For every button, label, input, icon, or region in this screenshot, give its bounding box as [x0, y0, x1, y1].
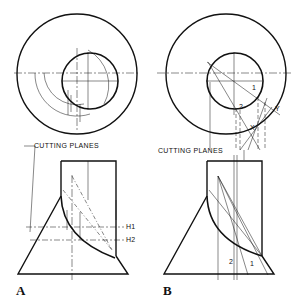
- panel-b-point-y: Y: [275, 105, 280, 112]
- panel-b-point-2: 2: [239, 103, 243, 110]
- panel-b-cutting-planes-label: CUTTING PLANES: [158, 147, 223, 154]
- drawing-canvas: [0, 0, 294, 304]
- panel-a-front-view: [18, 146, 128, 280]
- panel-b-point-1: 1: [252, 84, 256, 91]
- panel-a-plane-h1: H1: [126, 223, 136, 230]
- panel-b-front-view: [164, 150, 274, 280]
- panel-a-top-view: [14, 14, 140, 134]
- panel-a-cutting-planes-label: CUTTING PLANES: [34, 142, 99, 149]
- panel-a-label: A: [16, 283, 25, 299]
- panel-b-top-view: [157, 14, 292, 150]
- panel-a-plane-h2: H2: [126, 236, 136, 243]
- panel-b-label: B: [163, 283, 172, 299]
- panel-b-front-point-2: 2: [229, 258, 233, 265]
- panel-b-point-x: X: [250, 124, 255, 131]
- panel-b-front-point-1: 1: [250, 260, 254, 267]
